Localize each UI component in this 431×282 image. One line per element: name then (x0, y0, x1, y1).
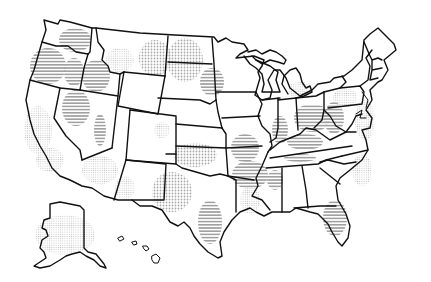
texture-texas (152, 172, 192, 212)
michigan-upper (248, 50, 286, 64)
texture-mississippi (267, 170, 283, 190)
hawaii (118, 236, 160, 263)
border-ga-sc (320, 168, 340, 184)
hawaii-oahu (132, 241, 137, 245)
border-ne-e (216, 100, 222, 128)
texture-colorado-se (154, 122, 170, 138)
border-wy (118, 72, 165, 114)
border-ny (340, 50, 372, 88)
texture-arizona (82, 156, 118, 184)
texture-dakotas (167, 38, 203, 82)
us-map: United States (0, 0, 431, 282)
border-sc-nc (320, 160, 356, 164)
border-ks-mo (222, 128, 226, 148)
border-new-england (364, 42, 382, 80)
hawaii-big-island (152, 254, 160, 263)
hawaii-kauai (118, 236, 124, 241)
border-sd-ne (158, 98, 216, 104)
texture-texas-coast (198, 200, 222, 244)
texture-louisiana (240, 186, 260, 214)
border-ut-co (126, 110, 130, 160)
hawaii-maui (143, 246, 149, 251)
us-map-svg (0, 0, 431, 282)
border-ne-ks (176, 124, 222, 128)
border-ia-mo (222, 116, 260, 118)
texture-utah-west (94, 114, 106, 146)
border-al-ga (302, 166, 308, 208)
border-co (126, 110, 176, 164)
texture-nevada (62, 90, 90, 126)
texture-washington (59, 28, 91, 52)
texture-layer (24, 28, 375, 255)
texture-idaho (82, 60, 110, 92)
texture-montana-west (106, 48, 134, 72)
texture-california-south (36, 148, 64, 172)
